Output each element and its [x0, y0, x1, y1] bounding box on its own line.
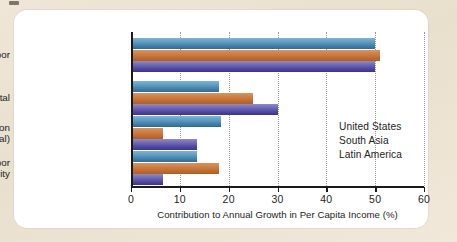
x-tick-label-50: 50	[369, 193, 381, 205]
bar-3-1	[132, 163, 219, 174]
category-label-line: Education	[0, 122, 10, 134]
category-label-line: productivity	[0, 168, 10, 180]
category-label-line: Physical capital	[0, 92, 10, 104]
bar-2-2	[132, 139, 197, 150]
category-label-line: Capital and labor	[0, 157, 10, 169]
x-tick-30	[278, 187, 279, 192]
x-tick-20	[229, 187, 230, 192]
x-tick-40	[326, 187, 327, 192]
bar-2-1	[132, 128, 163, 139]
bar-1-1	[132, 93, 253, 104]
legend-label-south-asia: South Asia	[339, 135, 389, 146]
plot-area: LaborPhysical capitalEducation(human cap…	[14, 10, 428, 228]
scan-artifact-mark	[9, 1, 19, 5]
x-axis-title: Contribution to Annual Growth in Per Cap…	[131, 209, 424, 220]
x-tick-label-60: 60	[418, 193, 430, 205]
chart-page: LaborPhysical capitalEducation(human cap…	[0, 0, 457, 242]
legend-item-united-states: United States	[302, 120, 402, 133]
bar-0-0	[132, 38, 375, 49]
chart-legend: United States South Asia Latin America	[302, 120, 402, 162]
x-tick-label-0: 0	[128, 193, 134, 205]
x-tick-50	[375, 187, 376, 192]
category-label-line: (human capital)	[0, 133, 10, 145]
bar-0-1	[132, 50, 380, 61]
bar-3-2	[132, 174, 163, 185]
category-label-line: Labor	[0, 49, 10, 61]
bar-3-0	[132, 151, 197, 162]
legend-swatch-united-states	[302, 122, 332, 132]
x-tick-10	[180, 187, 181, 192]
legend-label-latin-america: Latin America	[339, 149, 402, 160]
legend-swatch-latin-america	[302, 150, 332, 160]
legend-label-united-states: United States	[339, 121, 401, 132]
legend-item-south-asia: South Asia	[302, 134, 402, 147]
y-axis-line	[131, 32, 133, 187]
legend-swatch-south-asia	[302, 136, 332, 146]
legend-item-latin-america: Latin America	[302, 148, 402, 161]
x-tick-label-40: 40	[320, 193, 332, 205]
category-label-1: Physical capital	[0, 92, 10, 104]
bar-1-2	[132, 104, 278, 115]
x-tick-label-20: 20	[223, 193, 235, 205]
bar-2-0	[132, 116, 221, 127]
category-label-3: Capital and laborproductivity	[0, 157, 10, 180]
x-tick-60	[424, 187, 425, 192]
bar-0-2	[132, 61, 375, 72]
x-tick-0	[131, 187, 132, 192]
x-tick-label-10: 10	[174, 193, 186, 205]
category-label-2: Education(human capital)	[0, 122, 10, 145]
category-label-0: Labor	[0, 49, 10, 61]
bar-1-0	[132, 81, 219, 92]
x-tick-label-30: 30	[271, 193, 283, 205]
gridline-60	[424, 32, 426, 186]
chart-card: LaborPhysical capitalEducation(human cap…	[14, 10, 428, 228]
